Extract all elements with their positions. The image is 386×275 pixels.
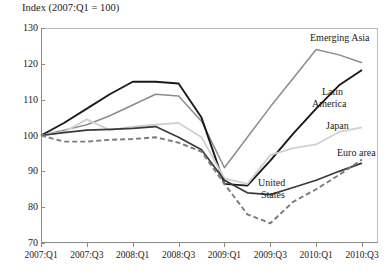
y-tick-mark xyxy=(41,171,45,172)
y-tick-mark xyxy=(41,243,45,244)
x-tick-label: 2009:Q1 xyxy=(208,250,241,261)
series-lines xyxy=(41,28,378,243)
x-tick-mark xyxy=(362,243,363,247)
x-tick-label: 2008:Q1 xyxy=(116,250,149,261)
y-tick-mark xyxy=(41,207,45,208)
y-tick-mark xyxy=(41,28,45,29)
x-tick-mark xyxy=(133,243,134,247)
x-tick-label: 2007:Q3 xyxy=(70,250,103,261)
series-line-latin-america xyxy=(41,70,362,186)
series-label: States xyxy=(261,189,285,200)
x-tick-label: 2008:Q3 xyxy=(162,250,195,261)
series-label: Japan xyxy=(326,120,349,131)
y-tick-mark xyxy=(41,136,45,137)
x-tick-mark xyxy=(87,243,88,247)
x-tick-label: 2007:Q1 xyxy=(24,250,57,261)
plot-area xyxy=(41,28,378,243)
x-tick-mark xyxy=(316,243,317,247)
x-tick-mark xyxy=(179,243,180,247)
y-tick-mark xyxy=(41,64,45,65)
chart-root: Index (2007:Q1 = 100) 708090100110120130… xyxy=(0,0,386,275)
series-label: Latin xyxy=(322,86,343,97)
series-line-united-states xyxy=(41,136,362,224)
series-label: Euro area xyxy=(337,147,376,158)
y-tick-mark xyxy=(41,100,45,101)
x-tick-label: 2010:Q1 xyxy=(300,250,333,261)
x-tick-label: 2009:Q3 xyxy=(254,250,287,261)
x-tick-label: 2010:Q3 xyxy=(345,250,378,261)
series-label: America xyxy=(312,98,346,109)
series-label: United xyxy=(258,177,285,188)
x-tick-mark xyxy=(270,243,271,247)
series-label: Emerging Asia xyxy=(310,32,370,43)
x-tick-mark xyxy=(224,243,225,247)
